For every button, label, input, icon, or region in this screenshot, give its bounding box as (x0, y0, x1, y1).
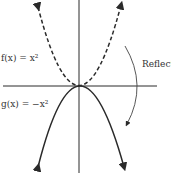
reflect-arrow (125, 46, 137, 124)
label-g: g(x) = −x² (1, 99, 48, 109)
label-reflect: Reflect (142, 59, 171, 69)
label-f: f(x) = x² (1, 53, 38, 63)
parabola-g (38, 86, 124, 167)
reflection-diagram (0, 0, 171, 179)
